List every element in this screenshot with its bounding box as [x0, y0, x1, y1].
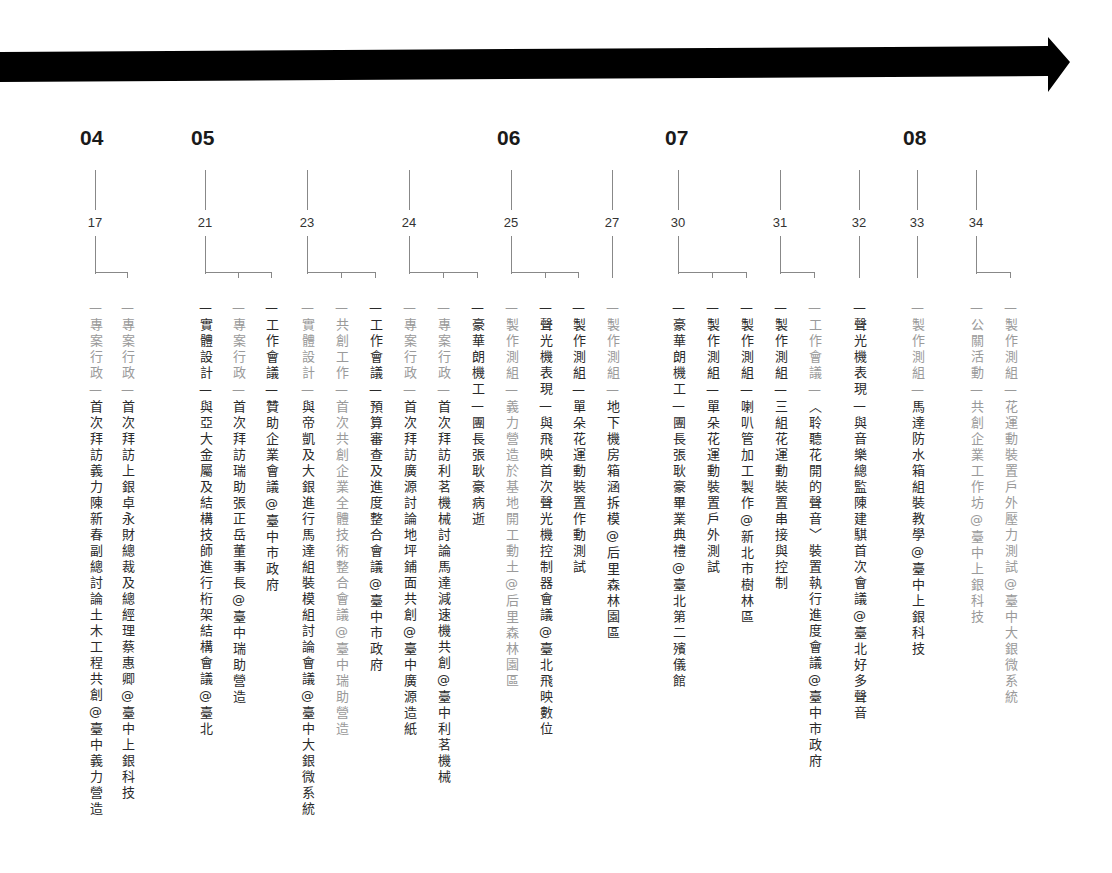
branch-tick [746, 272, 747, 278]
event-entry: —工作會議—預算審查及進度整合會議@臺中市政府 [367, 300, 383, 674]
timeline-arrow [0, 0, 1112, 110]
day-tick-upper [917, 170, 918, 210]
day-tick-lower [976, 236, 977, 274]
event-entry: —製作測組—喇叭管加工製作@新北市樹林區 [738, 300, 754, 626]
event-description: 首次拜訪瑞助張正岳董事長@臺中瑞助營造 [231, 400, 246, 706]
branch-tick [238, 272, 239, 278]
event-entry: —製作測組—義力營造於基地開工動土@后里森林園區 [503, 300, 519, 690]
day-tick-lower [511, 236, 512, 274]
event-category: —專案行政— [120, 300, 135, 400]
event-description: 義力營造於基地開工動土@后里森林園區 [504, 400, 519, 690]
event-entry: —聲光機表現—與飛映首次聲光機控制器會議@臺北飛映數位 [537, 300, 553, 738]
branch-tick [341, 272, 342, 278]
event-category: —專案行政— [402, 300, 417, 400]
event-category: —製作測組— [910, 300, 925, 400]
event-description: 單朵花運動裝置作動測試 [571, 400, 586, 576]
day-tick-upper [205, 170, 206, 210]
event-entry: —製作測組—三組花運動裝置串接與控制 [772, 300, 788, 592]
event-category: —實體設計— [198, 300, 213, 400]
event-category: —製作測組— [605, 300, 620, 400]
event-category: —專案行政— [88, 300, 103, 400]
day-label: 21 [198, 215, 212, 230]
event-description: 地下機房箱涵拆模@后里森林園區 [605, 400, 620, 642]
day-tick-upper [976, 170, 977, 210]
branch-tick [443, 272, 444, 278]
day-tick-lower [409, 236, 410, 274]
event-description: 首次拜訪義力陳新春副總討論土木工程共創@臺中義力營造 [88, 400, 103, 818]
event-description: 贊助企業會議@臺中市政府 [264, 400, 279, 594]
event-category: —製作測組— [773, 300, 788, 400]
event-category: —實體設計— [300, 300, 315, 400]
day-tick-upper [678, 170, 679, 210]
month-label: 05 [191, 126, 214, 150]
event-entry: —專案行政—首次拜訪瑞助張正岳董事長@臺中瑞助營造 [230, 300, 246, 706]
event-entry: —製作測組—馬達防水箱組裝教學@臺中上銀科技 [909, 300, 925, 658]
event-category: —共創工作— [334, 300, 349, 400]
month-label: 04 [80, 126, 103, 150]
day-tick-upper [511, 170, 512, 210]
day-label: 24 [402, 215, 416, 230]
event-category: —製作測組— [504, 300, 519, 400]
event-category: —製作測組— [739, 300, 754, 400]
event-entry: —豪華朗機工—團長張耿豪畢業典禮@臺北第二殯儀館 [670, 300, 686, 690]
event-description: 與音樂總監陳建騏首次會議@臺北好多聲音 [852, 416, 867, 722]
month-label: 08 [903, 126, 926, 150]
event-description: 花運動裝置戶外壓力測試@臺中大銀微系統 [1003, 400, 1018, 706]
event-entry: —實體設計—與亞大金屬及結構技師進行桁架結構會議@臺北 [197, 300, 213, 738]
event-description: 團長張耿豪畢業典禮@臺北第二殯儀館 [671, 416, 686, 690]
branch-tick [712, 272, 713, 278]
branch-tick [127, 272, 128, 278]
day-tick-upper [612, 170, 613, 210]
event-entry: —專案行政—首次拜訪廣源討論地坪鋪面共創@臺中廣源造紙 [401, 300, 417, 738]
branch-bracket [780, 272, 815, 273]
arrow-shape [0, 37, 1070, 92]
month-label: 07 [665, 126, 688, 150]
event-entry: —製作測組—單朵花運動裝置戶外測試 [704, 300, 720, 576]
event-entry: —製作測組—花運動裝置戶外壓力測試@臺中大銀微系統 [1002, 300, 1018, 706]
event-category: —製作測組— [571, 300, 586, 400]
event-description: 團長張耿豪病逝 [470, 416, 485, 528]
day-label: 34 [969, 215, 983, 230]
event-description: 與帝凱及大銀進行馬達組裝模組討論會議@臺中大銀微系統 [300, 400, 315, 818]
day-label: 17 [88, 215, 102, 230]
event-category: —豪華朗機工— [671, 300, 686, 416]
event-entry: —專案行政—首次拜訪上銀卓永財總裁及總經理蔡惠卿@臺中上銀科技 [119, 300, 135, 802]
day-tick-lower [917, 236, 918, 278]
day-tick-lower [307, 236, 308, 274]
event-description: 喇叭管加工製作@新北市樹林區 [739, 400, 754, 626]
branch-tick [578, 272, 579, 278]
event-category: —聲光機表現— [852, 300, 867, 416]
branch-tick [375, 272, 376, 278]
event-entry: —豪華朗機工—團長張耿豪病逝 [469, 300, 485, 528]
event-entry: —工作會議—︿聆聽花開的聲音﹀裝置執行進度會議@臺中市政府 [806, 300, 822, 770]
day-label: 23 [300, 215, 314, 230]
event-description: 與飛映首次聲光機控制器會議@臺北飛映數位 [538, 416, 553, 738]
event-entry: —製作測組—地下機房箱涵拆模@后里森林園區 [604, 300, 620, 642]
event-entry: —專案行政—首次拜訪義力陳新春副總討論土木工程共創@臺中義力營造 [87, 300, 103, 818]
event-category: —工作會議— [368, 300, 383, 400]
day-tick-upper [95, 170, 96, 210]
event-description: 三組花運動裝置串接與控制 [773, 400, 788, 592]
day-tick-upper [859, 170, 860, 210]
event-category: —工作會議— [264, 300, 279, 400]
event-entry: —實體設計—與帝凱及大銀進行馬達組裝模組討論會議@臺中大銀微系統 [299, 300, 315, 818]
branch-tick [271, 272, 272, 278]
day-tick-upper [409, 170, 410, 210]
day-tick-lower [612, 236, 613, 278]
event-category: —聲光機表現— [538, 300, 553, 416]
event-entry: —專案行政—首次拜訪利茗機械討論馬達減速機共創@臺中利茗機械 [435, 300, 451, 786]
day-tick-lower [859, 236, 860, 278]
event-description: 首次拜訪上銀卓永財總裁及總經理蔡惠卿@臺中上銀科技 [120, 400, 135, 802]
event-category: —豪華朗機工— [470, 300, 485, 416]
event-entry: —公關活動—共創企業工作坊@臺中上銀科技 [968, 300, 984, 626]
branch-bracket [976, 272, 1011, 273]
branch-bracket [95, 272, 128, 273]
event-description: 首次拜訪廣源討論地坪鋪面共創@臺中廣源造紙 [402, 400, 417, 738]
day-tick-lower [95, 236, 96, 274]
event-description: 首次拜訪利茗機械討論馬達減速機共創@臺中利茗機械 [436, 400, 451, 786]
day-tick-lower [205, 236, 206, 274]
day-tick-upper [780, 170, 781, 210]
event-category: —公關活動— [969, 300, 984, 400]
event-entry: —製作測組—單朵花運動裝置作動測試 [570, 300, 586, 576]
day-label: 31 [773, 215, 787, 230]
